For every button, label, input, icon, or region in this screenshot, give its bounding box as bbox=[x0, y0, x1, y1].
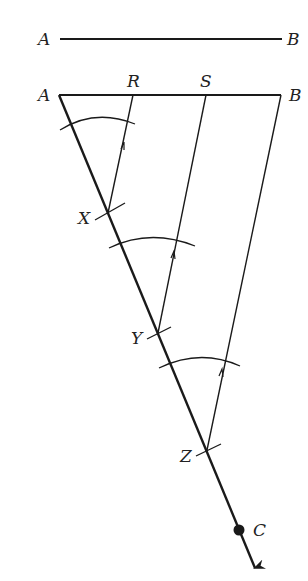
label-y: Y bbox=[131, 328, 144, 348]
line-xr bbox=[108, 95, 133, 213]
label-s: S bbox=[200, 71, 212, 91]
construction-diagram: A B A R S B X Y Z C bbox=[0, 0, 308, 581]
line-zb bbox=[207, 95, 281, 450]
label-top-b: B bbox=[286, 29, 300, 49]
label-c: C bbox=[253, 520, 266, 540]
label-x: X bbox=[76, 208, 91, 228]
point-c bbox=[234, 525, 245, 536]
label-r: R bbox=[126, 71, 140, 91]
label-z: Z bbox=[179, 446, 193, 466]
label-b: B bbox=[288, 85, 302, 105]
parallel-mark-3 bbox=[219, 369, 223, 377]
line-ys bbox=[158, 95, 206, 333]
ray-ac bbox=[59, 95, 255, 568]
arc-at-a bbox=[60, 117, 135, 130]
label-top-a: A bbox=[36, 29, 50, 49]
label-a: A bbox=[36, 85, 50, 105]
